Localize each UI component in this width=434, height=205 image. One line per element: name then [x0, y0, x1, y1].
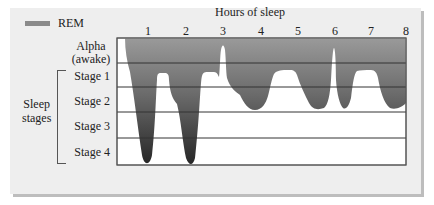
hypnogram-plot — [0, 0, 434, 205]
